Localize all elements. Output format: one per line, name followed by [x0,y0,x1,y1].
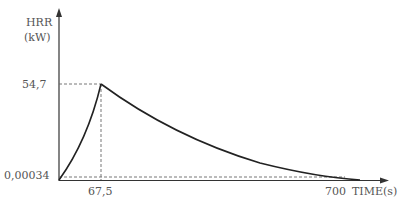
y-tick-peak: 54,7 [22,79,47,90]
hrr-chart [0,0,410,206]
y-axis-label-line1: HRR [26,17,52,28]
hrr-decay-curve [101,84,360,180]
y-tick-baseline: 0,00034 [4,170,50,181]
hrr-growth-curve [59,84,101,180]
x-tick-peak-time: 67,5 [88,186,113,197]
x-tick-end-time: 700 [325,186,346,197]
y-axis-label-line2: (kW) [24,32,51,43]
y-axis-arrow-icon [56,8,62,17]
x-axis-label: TIME(s) [352,186,397,197]
x-axis-arrow-icon [380,178,389,184]
